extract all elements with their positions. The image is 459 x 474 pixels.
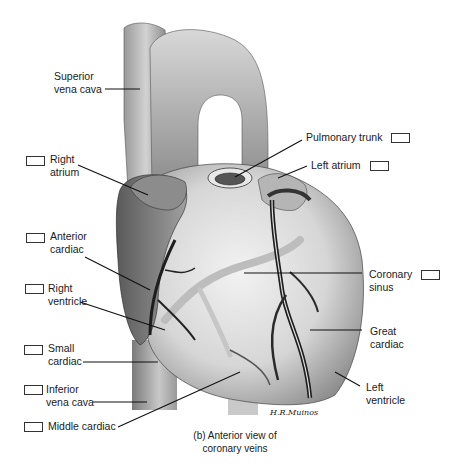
label-left-atrium: Left atrium	[311, 159, 361, 172]
figure-caption: (b) Anterior view of coronary veins	[170, 429, 300, 455]
label-inferior-vena-cava: Inferior vena cava	[46, 383, 94, 409]
answer-box-middle-cardiac[interactable]	[24, 422, 43, 432]
answer-box-inferior-vena-cava[interactable]	[24, 385, 43, 395]
answer-box-pulmonary-trunk[interactable]	[391, 133, 410, 143]
pulmonary-trunk-lumen	[215, 173, 245, 185]
coronary-veins-diagram: Superior vena cava Right atrium Anterior…	[0, 0, 459, 474]
label-great-cardiac: Great cardiac	[370, 325, 404, 351]
label-left-ventricle: Left ventricle	[366, 381, 405, 407]
label-anterior-cardiac: Anterior cardiac	[50, 230, 87, 256]
answer-box-coronary-sinus[interactable]	[421, 270, 440, 280]
answer-box-right-ventricle[interactable]	[25, 284, 44, 294]
label-middle-cardiac: Middle cardiac	[48, 420, 116, 433]
label-right-atrium: Right atrium	[50, 153, 79, 179]
label-small-cardiac: Small cardiac	[48, 342, 82, 368]
answer-box-right-atrium[interactable]	[26, 156, 45, 166]
artist-signature: H.R.Muinos	[270, 408, 318, 417]
answer-box-small-cardiac[interactable]	[24, 345, 43, 355]
answer-box-left-atrium[interactable]	[370, 161, 389, 171]
answer-box-anterior-cardiac[interactable]	[26, 233, 45, 243]
label-superior-vena-cava: Superior vena cava	[54, 70, 102, 96]
label-coronary-sinus: Coronary sinus	[369, 268, 412, 294]
label-pulmonary-trunk: Pulmonary trunk	[306, 131, 382, 144]
label-right-ventricle: Right ventricle	[48, 282, 87, 308]
